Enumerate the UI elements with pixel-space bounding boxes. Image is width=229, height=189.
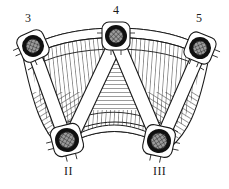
- node-label-3: 3: [25, 12, 31, 24]
- support-label-iii: III: [153, 165, 166, 177]
- node-label-4: 4: [113, 4, 119, 16]
- figure-root: 3 4 5 II III: [0, 0, 229, 189]
- truss-diagram: [0, 0, 229, 189]
- support-label-ii: II: [64, 165, 73, 177]
- node-label-5: 5: [196, 12, 202, 24]
- truss-body: [9, 22, 224, 166]
